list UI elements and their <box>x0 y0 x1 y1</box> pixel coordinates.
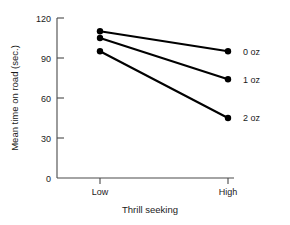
y-tick-label-90: 90 <box>41 54 51 64</box>
line-chart: 120 90 60 30 0 Low High Thrill seeking M… <box>0 0 290 225</box>
data-point-0oz-low <box>97 28 103 34</box>
data-point-2oz-high <box>225 115 231 121</box>
data-point-1oz-high <box>225 76 231 82</box>
y-tick-label-30: 30 <box>41 134 51 144</box>
x-axis-title: Thrill seeking <box>122 204 178 215</box>
data-point-1oz-low <box>97 35 103 41</box>
series-label-0oz: 0 oz <box>243 47 261 57</box>
series-label-1oz: 1 oz <box>243 75 261 85</box>
series-label-2oz: 2 oz <box>243 113 261 123</box>
y-tick-label-0: 0 <box>46 174 51 184</box>
y-tick-label-60: 60 <box>41 94 51 104</box>
chart-figure: 120 90 60 30 0 Low High Thrill seeking M… <box>0 0 290 225</box>
y-axis-title: Mean time on road (sec.) <box>9 45 20 151</box>
series-line-2oz <box>100 51 228 118</box>
data-point-2oz-low <box>97 48 103 54</box>
x-tick-label-low: Low <box>92 187 109 197</box>
x-tick-label-high: High <box>219 187 238 197</box>
series-line-0oz <box>100 31 228 51</box>
data-point-0oz-high <box>225 48 231 54</box>
series-line-1oz <box>100 38 228 79</box>
y-tick-label-120: 120 <box>36 14 51 24</box>
